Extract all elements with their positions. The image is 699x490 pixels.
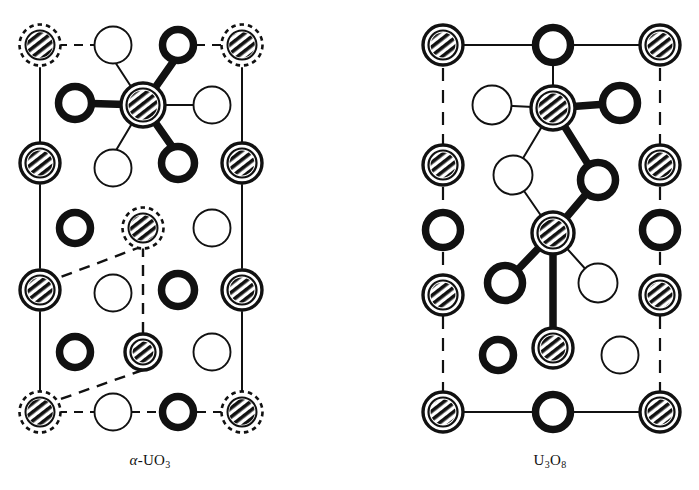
caption-oxygen: O xyxy=(550,452,561,468)
uranium-hatch-core xyxy=(230,151,255,176)
oxygen-atom-bold xyxy=(488,266,523,301)
oxygen-bold-ring xyxy=(603,86,638,121)
uranium-atom xyxy=(531,86,575,130)
oxygen-bold-ring xyxy=(163,397,194,428)
atom-layer xyxy=(423,25,680,432)
uranium-atom xyxy=(121,83,165,127)
oxygen-atom-bold xyxy=(426,213,461,248)
oxygen-atom-thin xyxy=(194,87,231,124)
uranium-hatch-core xyxy=(133,342,154,363)
oxygen-thin-ring xyxy=(194,334,231,371)
oxygen-thin-ring xyxy=(579,264,618,303)
panel-u3o8 xyxy=(350,0,699,490)
oxygen-bold-ring xyxy=(60,337,91,368)
oxygen-atom-bold xyxy=(163,30,194,61)
oxygen-bold-ring xyxy=(59,87,92,120)
oxygen-bold-ring xyxy=(162,274,195,307)
oxygen-thin-ring xyxy=(194,210,231,247)
uranium-hatch-core xyxy=(431,153,456,178)
unit-cell-edge xyxy=(58,246,143,278)
uranium-atom-corner xyxy=(20,25,61,66)
oxygen-atom-bold xyxy=(162,147,195,180)
oxygen-thin-ring xyxy=(602,337,639,374)
caption-oxygen: O xyxy=(154,452,165,468)
uranium-atom-corner xyxy=(20,392,61,433)
oxygen-atom-thin xyxy=(95,27,132,64)
uranium-atom xyxy=(640,275,680,315)
oxygen-bold-ring xyxy=(536,28,571,63)
oxygen-thin-ring xyxy=(95,275,132,312)
caption-alpha-symbol: α xyxy=(129,452,137,468)
oxygen-atom-bold xyxy=(60,213,91,244)
caption-uranium: U xyxy=(534,452,545,468)
uranium-atom xyxy=(125,334,161,370)
oxygen-atom-thin xyxy=(579,264,618,303)
uranium-hatch-core xyxy=(28,278,53,303)
oxygen-atom-bold xyxy=(536,395,571,430)
uranium-hatch-core xyxy=(648,400,673,425)
caption-oxygen-subscript: 3 xyxy=(165,459,170,470)
oxygen-thin-ring xyxy=(95,394,132,431)
oxygen-atom-thin xyxy=(494,156,533,195)
caption-alpha-uo3: α-UO3 xyxy=(0,452,300,470)
uranium-atom xyxy=(423,25,463,65)
oxygen-atom-thin xyxy=(95,275,132,312)
uranium-atom xyxy=(222,143,262,183)
crystal-structure-figure: α-UO3 U3O8 xyxy=(0,0,699,490)
caption-u3o8: U3O8 xyxy=(400,452,699,470)
uranium-atom-corner xyxy=(123,208,164,249)
oxygen-bold-ring xyxy=(163,30,194,61)
oxygen-thin-ring xyxy=(95,150,132,187)
uranium-atom xyxy=(222,270,262,310)
oxygen-bold-ring xyxy=(162,147,195,180)
uranium-corner-hatch-core xyxy=(27,399,53,425)
uranium-atom xyxy=(423,392,463,432)
uranium-atom xyxy=(20,143,60,183)
oxygen-atom-thin xyxy=(95,150,132,187)
u3o8-diagram xyxy=(350,0,699,450)
oxygen-atom-bold xyxy=(59,87,92,120)
uranium-corner-hatch-core xyxy=(130,215,156,241)
oxygen-atom-thin xyxy=(95,394,132,431)
uranium-hatch-core xyxy=(431,33,456,58)
oxygen-bold-ring xyxy=(483,340,514,371)
uranium-atom xyxy=(533,328,573,368)
uranium-corner-hatch-core xyxy=(27,32,53,58)
uranium-atom-corner xyxy=(222,25,263,66)
uranium-hatch-core xyxy=(539,94,568,123)
uranium-hatch-core xyxy=(541,336,566,361)
uranium-hatch-core xyxy=(431,400,456,425)
oxygen-atom-bold xyxy=(643,213,678,248)
oxygen-atom-bold xyxy=(603,86,638,121)
oxygen-bold-ring xyxy=(426,213,461,248)
oxygen-atom-thin xyxy=(194,334,231,371)
uranium-hatch-core xyxy=(230,278,255,303)
uranium-atom xyxy=(532,212,574,254)
oxygen-bold-ring xyxy=(488,266,523,301)
uranium-hatch-core xyxy=(129,91,158,120)
uranium-atom xyxy=(640,145,680,185)
alpha-uo3-diagram xyxy=(0,0,350,450)
oxygen-atom-bold xyxy=(60,337,91,368)
uranium-hatch-core xyxy=(28,151,53,176)
uranium-atom xyxy=(423,275,463,315)
uranium-corner-hatch-core xyxy=(229,32,255,58)
oxygen-thin-ring xyxy=(473,86,512,125)
uranium-hatch-core xyxy=(648,153,673,178)
uranium-hatch-core xyxy=(431,283,456,308)
uranium-corner-hatch-core xyxy=(229,399,255,425)
oxygen-atom-bold xyxy=(581,163,616,198)
oxygen-bold-ring xyxy=(536,395,571,430)
uranium-hatch-core xyxy=(648,33,673,58)
uranium-atom xyxy=(423,145,463,185)
oxygen-atom-thin xyxy=(473,86,512,125)
uranium-atom xyxy=(20,270,60,310)
uranium-atom-corner xyxy=(222,392,263,433)
oxygen-atom-bold xyxy=(536,28,571,63)
oxygen-bold-ring xyxy=(581,163,616,198)
unit-cell-edge xyxy=(58,370,143,400)
oxygen-atom-thin xyxy=(194,210,231,247)
caption-uranium: U xyxy=(143,452,154,468)
uranium-hatch-core xyxy=(540,220,567,247)
oxygen-thin-ring xyxy=(95,27,132,64)
